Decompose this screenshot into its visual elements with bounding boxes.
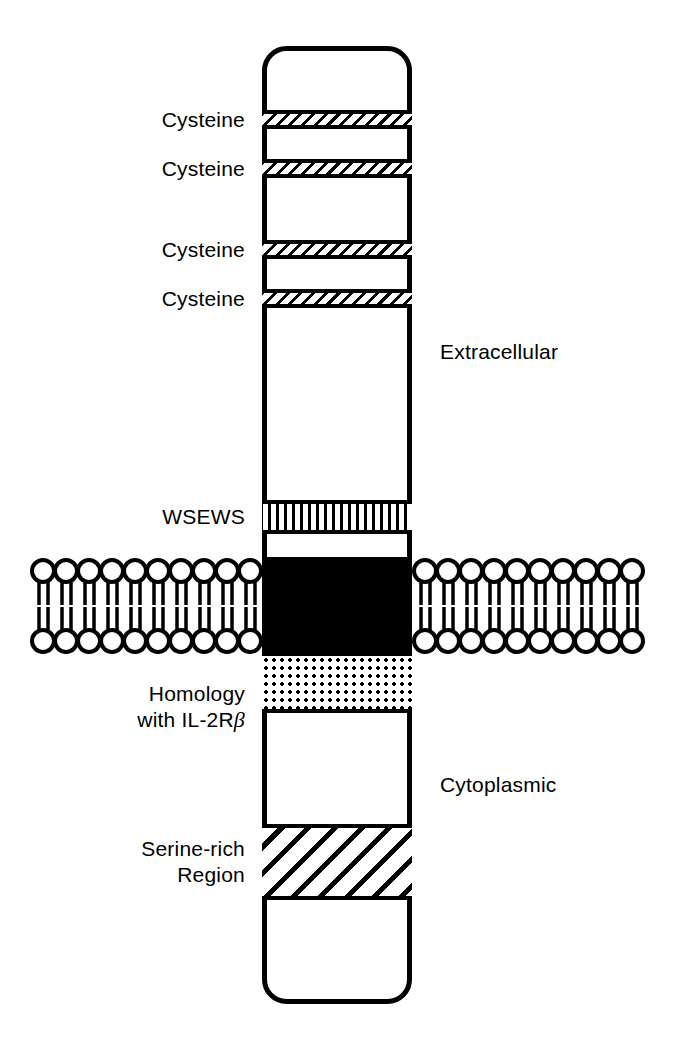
label-text: Cysteine: [0, 156, 245, 182]
label-cysteine-3: Cysteine: [0, 237, 245, 263]
lipid-bilayer-left: [30, 556, 262, 656]
label-text-line2: with IL-2Rβ: [0, 707, 245, 733]
label-text-line2-main: with IL-2R: [137, 708, 234, 731]
label-text: Cytoplasmic: [440, 772, 557, 798]
label-wsews: WSEWS: [0, 504, 245, 530]
domain-band-homology-il2rb: [262, 656, 412, 713]
label-extracellular: Extracellular: [440, 339, 558, 365]
label-cysteine-2: Cysteine: [0, 156, 245, 182]
label-homology-il2rb: Homology with IL-2Rβ: [0, 681, 245, 733]
domain-band-serine-rich: [262, 824, 412, 900]
domain-band-wsews: [262, 500, 412, 534]
label-cysteine-1: Cysteine: [0, 107, 245, 133]
domain-band-cysteine-1: [262, 110, 412, 129]
receptor-column: [262, 46, 412, 1004]
label-text-line1: Serine-rich: [0, 836, 245, 862]
label-text: Cysteine: [0, 107, 245, 133]
lipid-bilayer-right: [412, 556, 655, 656]
beta-glyph: β: [234, 707, 245, 732]
label-cytoplasmic: Cytoplasmic: [440, 772, 557, 798]
label-text: Cysteine: [0, 237, 245, 263]
domain-band-cysteine-4: [262, 289, 412, 308]
label-cysteine-4: Cysteine: [0, 286, 245, 312]
domain-band-cysteine-2: [262, 159, 412, 178]
label-text-line1: Homology: [0, 681, 245, 707]
domain-band-cysteine-3: [262, 240, 412, 259]
label-text-line2: Region: [0, 862, 245, 888]
domain-band-transmembrane: [262, 557, 412, 656]
receptor-domain-diagram: Cysteine Cysteine Cysteine Cysteine WSEW…: [0, 0, 681, 1044]
label-text: Cysteine: [0, 286, 245, 312]
label-serine-rich: Serine-rich Region: [0, 836, 245, 888]
label-text: WSEWS: [0, 504, 245, 530]
label-text: Extracellular: [440, 339, 558, 365]
